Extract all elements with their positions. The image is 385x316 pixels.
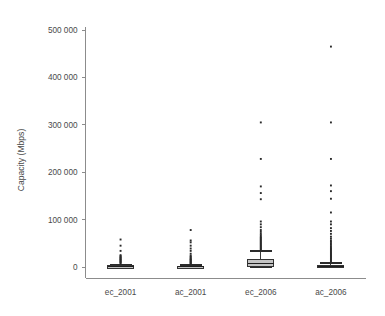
outlier-point [190, 255, 192, 257]
outlier-point [190, 241, 192, 243]
box-group-ec_2001 [108, 239, 134, 269]
x-tick-label-ac_2001: ac_2001 [175, 288, 207, 297]
outlier-point [190, 240, 192, 242]
outlier-point [260, 192, 262, 194]
y-tick-label: 100 000 [48, 216, 78, 225]
outlier-point [330, 185, 332, 187]
outlier-point [260, 231, 262, 233]
y-tick-group: 0100 000200 000300 000400 000500 000 [48, 26, 86, 272]
outlier-point [330, 221, 332, 223]
outlier-point [260, 185, 262, 187]
x-tick-group: ec_2001ac_2001ec_2006ac_2006 [105, 288, 347, 297]
outlier-point [330, 233, 332, 235]
outlier-point [330, 46, 332, 48]
y-axis-title: Capacity (Mbps) [16, 129, 26, 192]
outlier-point [120, 250, 122, 252]
outlier-point [330, 223, 332, 225]
outlier-point [190, 250, 192, 252]
outlier-point [120, 239, 122, 241]
outlier-point [190, 245, 192, 247]
outlier-point [260, 229, 262, 231]
outlier-point [330, 240, 332, 242]
y-tick-label: 0 [73, 263, 78, 272]
outlier-point [330, 190, 332, 192]
y-tick-label: 300 000 [48, 121, 78, 130]
outlier-point [120, 254, 122, 256]
outlier-point [330, 227, 332, 229]
outlier-point [330, 238, 332, 240]
outlier-point [260, 233, 262, 235]
outlier-point [260, 198, 262, 200]
x-tick-label-ec_2001: ec_2001 [105, 288, 137, 297]
outlier-point [330, 212, 332, 214]
outlier-point [260, 221, 262, 223]
box-series-group [108, 46, 344, 269]
y-tick-label: 400 000 [48, 73, 78, 82]
outlier-point [190, 229, 192, 231]
outlier-point [330, 198, 332, 200]
box-group-ac_2001 [178, 229, 204, 268]
outlier-point [260, 158, 262, 160]
outlier-point [120, 245, 122, 247]
outlier-point [330, 236, 332, 238]
outlier-point [260, 226, 262, 228]
plot-canvas: 0100 000200 000300 000400 000500 000 ec_… [0, 0, 385, 316]
x-tick-label-ec_2006: ec_2006 [245, 288, 277, 297]
x-tick-label-ac_2006: ac_2006 [315, 288, 347, 297]
y-tick-label: 200 000 [48, 168, 78, 177]
outlier-point [260, 121, 262, 123]
box-plot-figure: 0100 000200 000300 000400 000500 000 ec_… [0, 0, 385, 316]
outlier-point [190, 253, 192, 255]
outlier-point [330, 121, 332, 123]
outlier-point [190, 248, 192, 250]
box-group-ac_2006 [318, 46, 344, 268]
box-group-ec_2006 [248, 121, 274, 267]
y-tick-label: 500 000 [48, 26, 78, 35]
outlier-point [330, 230, 332, 232]
outlier-point [330, 158, 332, 160]
outlier-point [260, 223, 262, 225]
box-iqr [248, 260, 274, 266]
